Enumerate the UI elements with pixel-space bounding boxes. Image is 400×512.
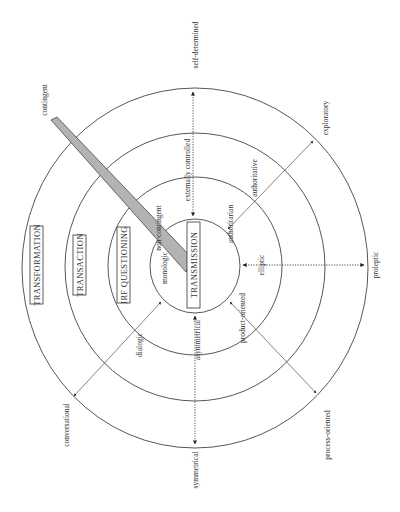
label-authoritarian: authoritarian (226, 205, 235, 244)
axes (193, 92, 364, 444)
label-proleptic: proleptic (371, 251, 380, 278)
label-irf-questioning: IRF QUESTIONING (119, 226, 129, 303)
ring-label-irf-questioning: IRF QUESTIONING (117, 226, 130, 303)
ring-label-transmission: TRANSMISSION (187, 222, 200, 308)
label-non-contingent: non-contingent (154, 204, 163, 250)
label-self-determined: self-determined (191, 21, 200, 68)
label-product-oriented: product-oriented (238, 293, 247, 343)
label-transformation: TRANSFORMATION (32, 224, 42, 306)
label-process-oriented: process-oriented (323, 410, 332, 460)
label-authoritative: authoritative (250, 158, 259, 197)
label-symmetrical: symmetrical (191, 451, 200, 488)
label-monologic: monologic (160, 251, 169, 284)
label-transaction: TRANSACTION (75, 233, 85, 296)
axis-lower-left (74, 302, 161, 396)
pedagogy-rings-diagram: TRANSFORMATION TRANSACTION IRF QUESTIONI… (0, 0, 400, 512)
label-elliptic: elliptic (257, 254, 266, 275)
label-asymmetrical: asymmetrical (193, 320, 202, 360)
label-externally-controlled: externally controlled (183, 139, 192, 202)
ring-label-transaction: TRANSACTION (73, 233, 86, 296)
label-conversational: conversational (62, 403, 71, 447)
label-transmission: TRANSMISSION (189, 232, 199, 298)
axis-upper-right (228, 141, 313, 229)
label-dialogic: dialogic (135, 332, 144, 357)
ring-label-transformation: TRANSFORMATION (30, 224, 43, 306)
label-contingent: contingent (40, 83, 49, 116)
label-exploratory: exploratory (321, 100, 330, 135)
